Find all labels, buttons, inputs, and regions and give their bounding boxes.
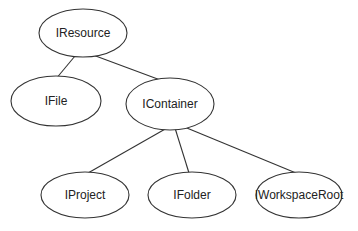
node-iproject: IProject: [41, 172, 129, 218]
node-ifolder: IFolder: [148, 172, 236, 218]
node-ifile: IFile: [11, 76, 101, 126]
edge-iresource-icontainer: [93, 55, 163, 81]
node-label: IContainer: [142, 97, 197, 111]
node-label: IWorkspaceRoot: [255, 188, 344, 202]
nodes: IResourceIFileIContainerIProjectIFolderI…: [11, 9, 344, 218]
resource-hierarchy-diagram: IResourceIFileIContainerIProjectIFolderI…: [0, 0, 358, 231]
node-label: IProject: [65, 188, 106, 202]
node-iworkspaceroot: IWorkspaceRoot: [255, 172, 344, 218]
node-icontainer: IContainer: [126, 78, 214, 130]
edge-icontainer-iworkspaceroot: [182, 126, 296, 173]
node-label: IFile: [45, 94, 68, 108]
node-label: IResource: [56, 26, 111, 40]
node-iresource: IResource: [39, 9, 127, 57]
edge-icontainer-ifolder: [175, 128, 189, 173]
node-label: IFolder: [173, 188, 210, 202]
edge-icontainer-iproject: [88, 128, 167, 173]
